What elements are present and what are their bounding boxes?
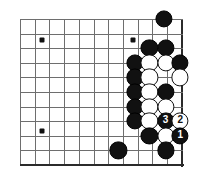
stone-black[interactable] <box>157 142 174 159</box>
move-number-label: 2 <box>177 116 183 126</box>
star-point <box>40 129 45 134</box>
grid-line-horizontal <box>20 34 183 35</box>
grid-line-horizontal <box>20 77 183 78</box>
star-point <box>40 38 45 43</box>
stone-black[interactable] <box>141 127 158 144</box>
star-point <box>131 38 136 43</box>
move-number-label: 3 <box>163 116 169 126</box>
board-edge-line-horizontal <box>20 164 184 166</box>
stone-black[interactable] <box>110 142 127 159</box>
move-number-label: 1 <box>177 130 183 140</box>
stone-black[interactable] <box>155 10 172 27</box>
move-stone-1[interactable]: 1 <box>172 127 189 144</box>
stone-white[interactable] <box>172 69 189 86</box>
board-edge-line-vertical <box>181 19 183 167</box>
go-board-diagram: 321 <box>0 0 204 190</box>
